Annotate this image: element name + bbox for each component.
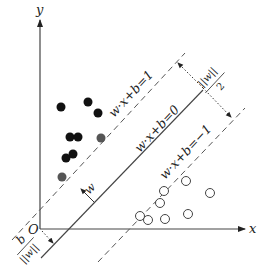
upper-margin-line — [12, 53, 185, 240]
positive-point — [74, 133, 83, 142]
positive-point — [57, 103, 66, 112]
negative-point — [161, 215, 170, 224]
positive-point — [69, 150, 78, 159]
positive-support-vector — [97, 134, 106, 143]
y-axis-label: y — [35, 2, 44, 17]
lower-margin-line — [98, 108, 245, 262]
negative-class-points — [136, 177, 215, 225]
negative-point — [156, 199, 165, 208]
positive-point — [84, 98, 93, 107]
normal-vector-label: w — [81, 179, 99, 197]
negative-point — [206, 189, 215, 198]
negative-support-vector — [160, 187, 169, 196]
diagram-svg: y x O w·x+b=1 w·x+b=0 w·x+b=−1 w b ||w||… — [0, 0, 265, 278]
positive-point — [66, 133, 75, 142]
origin-label: O — [28, 222, 39, 237]
positive-class-points — [57, 98, 103, 163]
margin-numerator: 2 — [214, 80, 226, 92]
offset-dotted-line — [42, 231, 53, 243]
positive-point — [94, 109, 103, 118]
margin-fraction: ||w|| 2 — [194, 62, 233, 101]
x-axis-label: x — [249, 221, 257, 236]
offset-numerator: b — [13, 232, 28, 247]
positive-support-vector — [58, 173, 67, 182]
negative-support-vector — [136, 212, 145, 221]
negative-point — [184, 210, 193, 219]
decision-boundary-label: w·x+b=0 — [131, 102, 182, 155]
margin-dotted-line — [203, 88, 231, 117]
svm-diagram: y x O w·x+b=1 w·x+b=0 w·x+b=−1 w b ||w||… — [0, 0, 265, 278]
negative-point — [182, 177, 191, 186]
